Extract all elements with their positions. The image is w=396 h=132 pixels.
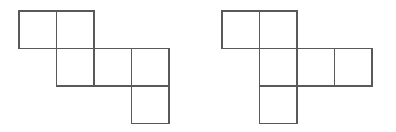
right-net-cell-c2-r1	[297, 49, 335, 87]
left-net-cell-c2-r1	[94, 49, 132, 87]
left-net-cell-c0-r0	[19, 11, 57, 49]
right-net-cell-c1-r1	[260, 49, 298, 87]
left-net-cell-c3-r1	[132, 49, 170, 87]
left-net-cell-c3-r2	[132, 86, 170, 124]
cube-nets-diagram	[0, 0, 396, 132]
right-net-cell-c1-r2	[260, 86, 298, 124]
right-net-cell-c1-r0	[260, 11, 298, 49]
left-net-cell-c1-r1	[57, 49, 95, 87]
left-net-cell-c1-r0	[57, 11, 95, 49]
figure-canvas	[0, 0, 396, 132]
left-net	[19, 11, 169, 124]
right-net	[222, 11, 372, 124]
right-net-cell-c0-r0	[222, 11, 260, 49]
right-net-cell-c3-r1	[335, 49, 373, 87]
